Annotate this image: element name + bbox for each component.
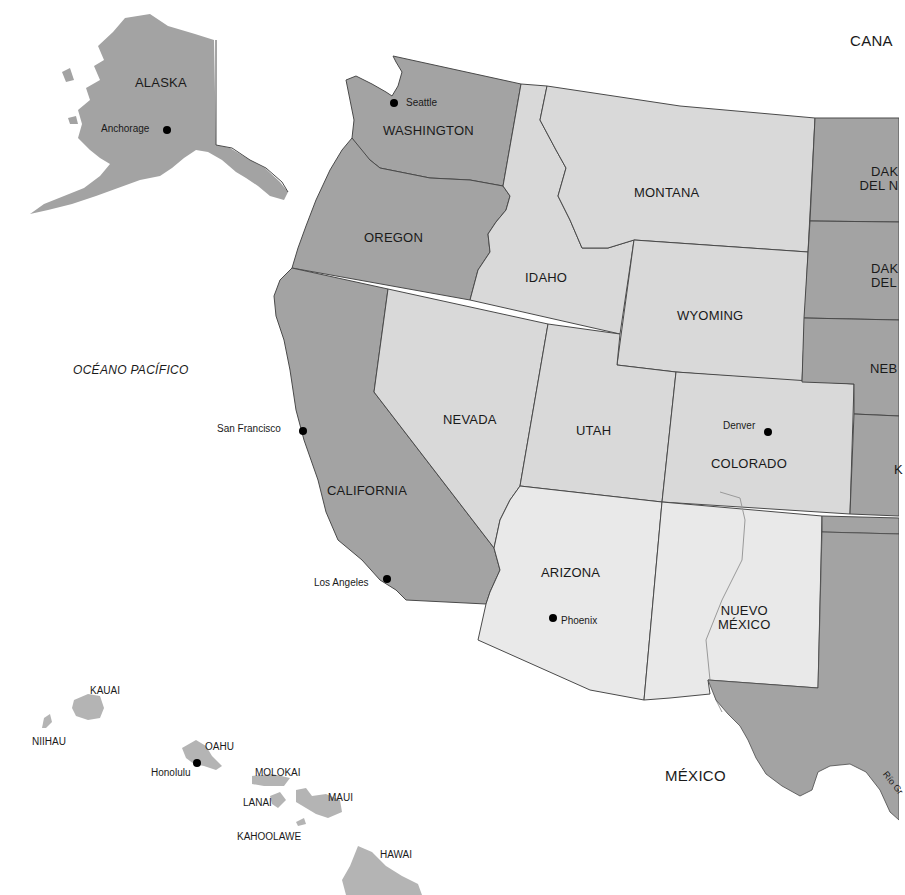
label-nebraska: NEB xyxy=(870,362,897,376)
label-south-dakota-line1: DAK xyxy=(871,262,898,276)
colorado-shape xyxy=(662,372,854,514)
new-mexico-shape xyxy=(644,502,822,700)
label-montana: MONTANA xyxy=(634,186,699,200)
label-canada: CANA xyxy=(850,33,893,50)
label-south-dakota-line2: DEL xyxy=(871,276,898,290)
label-seattle: Seattle xyxy=(406,97,437,108)
label-kansas: K xyxy=(894,463,903,477)
label-new-mexico-line1: NUEVO xyxy=(718,604,770,618)
label-colorado: COLORADO xyxy=(711,457,787,471)
label-new-mexico: NUEVO MÉXICO xyxy=(718,604,770,633)
label-los-angeles: Los Angeles xyxy=(314,577,369,588)
montana-shape xyxy=(540,86,815,252)
hawaii-islands xyxy=(42,694,422,895)
kauai-island xyxy=(72,694,104,720)
label-north-dakota-line2: DEL N xyxy=(857,179,898,193)
label-utah: UTAH xyxy=(576,424,611,438)
city-dot-phoenix xyxy=(549,614,557,622)
city-dot-los-angeles xyxy=(383,575,391,583)
label-mexico: MÉXICO xyxy=(665,768,726,785)
city-dot-honolulu xyxy=(193,759,201,767)
label-washington: WASHINGTON xyxy=(383,124,474,138)
label-alaska: ALASKA xyxy=(135,76,187,90)
label-kahoolawe: KAHOOLAWE xyxy=(237,831,301,842)
kansas-shape xyxy=(850,414,899,516)
label-idaho: IDAHO xyxy=(525,271,567,285)
label-denver: Denver xyxy=(723,420,755,431)
kahoolawe-island xyxy=(296,818,306,826)
label-san-francisco: San Francisco xyxy=(217,423,281,434)
city-dot-denver xyxy=(764,428,772,436)
label-oahu: OAHU xyxy=(205,741,234,752)
label-lanai: LANAI xyxy=(243,797,272,808)
city-dot-seattle xyxy=(390,99,398,107)
label-phoenix: Phoenix xyxy=(561,615,597,626)
oklahoma-shape xyxy=(822,516,899,534)
label-north-dakota-line1: DAK xyxy=(857,165,898,179)
label-oregon: OREGON xyxy=(364,231,423,245)
city-dot-san-francisco xyxy=(299,427,307,435)
label-california: CALIFORNIA xyxy=(327,484,407,498)
label-honolulu: Honolulu xyxy=(151,767,190,778)
label-anchorage: Anchorage xyxy=(101,123,149,134)
label-north-dakota: DAK DEL N xyxy=(857,165,898,194)
arizona-shape xyxy=(478,486,662,700)
label-kauai: KAUAI xyxy=(90,685,120,696)
label-wyoming: WYOMING xyxy=(677,309,743,323)
label-maui: MAUI xyxy=(328,792,353,803)
niihau-island xyxy=(42,714,52,728)
label-molokai: MOLOKAI xyxy=(255,767,301,778)
label-new-mexico-line2: MÉXICO xyxy=(718,618,770,632)
label-south-dakota: DAK DEL xyxy=(871,262,898,291)
label-niihau: NIIHAU xyxy=(32,736,66,747)
label-pacific-ocean: OCÉANO PACÍFICO xyxy=(73,364,189,377)
city-dot-anchorage xyxy=(163,126,171,134)
label-arizona: ARIZONA xyxy=(541,566,600,580)
label-hawaii: HAWAI xyxy=(380,849,412,860)
alaska-shape xyxy=(30,14,288,214)
label-nevada: NEVADA xyxy=(443,413,497,427)
lanai-island xyxy=(270,792,286,808)
